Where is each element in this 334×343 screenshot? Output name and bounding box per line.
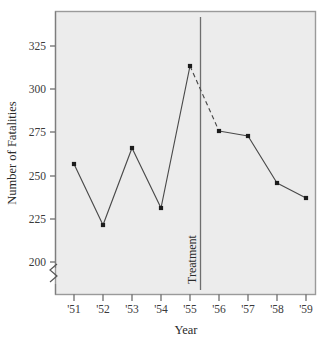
y-tick-label-250: 250	[29, 170, 47, 182]
x-tick-label-59: '59	[299, 303, 313, 315]
x-tick-label-52: '52	[96, 303, 110, 315]
y-tick-label-275: 275	[29, 126, 47, 138]
x-tick-label-56: '56	[212, 303, 226, 315]
data-point-56	[217, 129, 221, 133]
x-tick-label-51: '51	[67, 303, 81, 315]
data-point-55	[188, 64, 192, 68]
data-point-52	[101, 223, 105, 227]
x-tick-label-54: '54	[154, 303, 168, 315]
data-point-59	[304, 196, 308, 200]
data-point-54	[159, 206, 163, 210]
y-tick-label-225: 225	[29, 213, 47, 225]
data-point-51	[72, 162, 76, 166]
data-point-57	[246, 134, 250, 138]
x-tick-label-53: '53	[125, 303, 139, 315]
x-axis-title: Year	[174, 323, 198, 337]
x-tick-label-55: '55	[183, 303, 197, 315]
x-tick-label-57: '57	[241, 303, 255, 315]
interrupted-time-series-chart: 325 300 275 250 225 200 Number of Fatali…	[0, 0, 334, 343]
data-point-58	[275, 181, 279, 185]
y-tick-label-325: 325	[29, 40, 47, 52]
data-point-53	[130, 146, 134, 150]
x-tick-label-58: '58	[270, 303, 284, 315]
y-axis-title: Number of Fatalities	[5, 101, 19, 205]
y-tick-label-300: 300	[29, 83, 47, 95]
treatment-label: Treatment	[185, 234, 199, 284]
y-tick-label-200: 200	[29, 256, 47, 268]
